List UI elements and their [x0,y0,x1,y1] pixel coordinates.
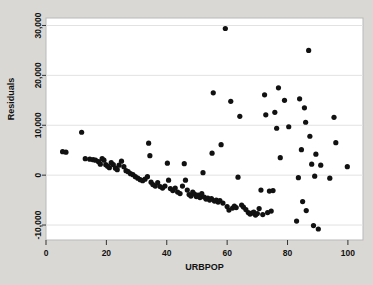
data-point [274,126,279,131]
chart-page: -10,000010,00020,00030,000020406080100UR… [0,0,373,285]
data-point [272,110,277,115]
data-point [237,114,242,119]
x-tick-label-2: 40 [162,248,172,258]
data-point [166,178,171,183]
data-point [182,161,187,166]
data-point [234,205,239,210]
data-point [307,134,312,139]
data-point [235,175,240,180]
data-point [79,130,84,135]
data-point [327,176,332,181]
data-point [223,26,228,31]
data-point [302,105,307,110]
data-point [183,178,188,183]
data-point [282,98,287,103]
data-point [311,223,316,228]
data-point [296,175,301,180]
data-point [146,141,151,146]
y-tick-label-0: -10,000 [33,210,43,239]
x-tick-label-3: 60 [222,248,232,258]
data-point [304,208,309,213]
data-point [257,206,262,211]
data-point [303,120,308,125]
data-point [270,188,275,193]
plot-area-background [46,18,363,240]
data-point [300,199,305,204]
data-point [299,147,304,152]
x-tick-label-0: 0 [44,248,49,258]
data-point [269,208,274,213]
data-point [255,211,260,216]
data-point [306,48,311,53]
data-point [145,174,150,179]
data-point [200,170,205,175]
y-tick-label-4: 30,000 [33,12,43,38]
data-point [63,150,68,155]
data-point [165,161,170,166]
data-point [119,159,124,164]
data-point [228,99,233,104]
data-point [318,163,323,168]
data-point [177,191,182,196]
data-point [101,158,106,163]
y-tick-label-3: 20,000 [33,62,43,88]
data-point [98,162,103,167]
data-point [262,92,267,97]
data-point [260,212,265,217]
data-point [294,218,299,223]
scatter-plot-svg: -10,000010,00020,00030,000020406080100UR… [0,0,373,285]
scatter-plot: -10,000010,00020,00030,000020406080100UR… [0,0,373,285]
data-point [83,156,88,161]
data-point [180,184,185,189]
data-point [211,90,216,95]
y-axis-title: Residuals [6,78,16,121]
data-point [316,226,321,231]
data-point [162,184,167,189]
data-point [331,115,336,120]
data-point [115,167,120,172]
data-point [286,124,291,129]
data-point [263,112,268,117]
x-axis-title: URBPOP [185,262,224,272]
data-point [147,153,152,158]
data-point [278,155,283,160]
data-point [345,164,350,169]
data-point [276,85,281,90]
y-tick-label-1: 0 [33,173,43,178]
data-point [219,142,224,147]
data-point [312,174,317,179]
data-point [220,200,225,205]
data-point [297,96,302,101]
data-point [258,188,263,193]
x-tick-label-1: 20 [102,248,112,258]
data-point [313,152,318,157]
data-point [309,162,314,167]
data-point [333,140,338,145]
data-point [185,188,190,193]
x-tick-label-4: 80 [283,248,293,258]
x-tick-label-5: 100 [341,248,355,258]
y-tick-label-2: 10,000 [33,112,43,138]
data-point [209,151,214,156]
